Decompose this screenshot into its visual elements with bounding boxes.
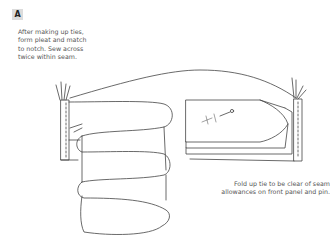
tie-roll-lower xyxy=(164,127,166,170)
pin-shaft xyxy=(220,112,230,116)
tie-roll-middle xyxy=(77,136,170,182)
pin-head-icon xyxy=(230,109,233,112)
folded-tie-outline xyxy=(186,100,288,142)
tie-roll-top xyxy=(69,102,172,137)
left-seam-strip xyxy=(61,100,69,160)
sewing-illustration xyxy=(0,0,332,248)
right-tie-strands xyxy=(292,78,306,99)
left-tie-strands xyxy=(56,82,70,100)
folded-tie-layer xyxy=(186,124,288,148)
pin-left xyxy=(70,124,82,132)
fabric-top-edge xyxy=(70,70,296,98)
fabric-bottom-edge xyxy=(190,159,294,161)
